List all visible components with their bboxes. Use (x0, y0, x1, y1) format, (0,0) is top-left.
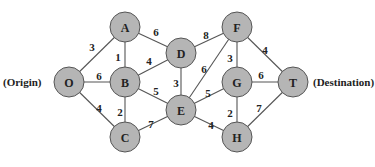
edge-weight-E-F: 6 (201, 63, 207, 75)
node-label: O (64, 76, 73, 90)
edge-weight-E-H: 4 (208, 119, 214, 131)
edge-weight-O-C: 4 (96, 102, 102, 114)
node-H: H (222, 122, 252, 152)
node-E: E (166, 95, 196, 125)
edge-weight-F-T: 4 (262, 44, 268, 56)
edge-weight-H-T: 7 (256, 102, 262, 114)
node-label: T (289, 76, 297, 90)
edge-weight-O-B: 6 (96, 70, 102, 82)
edge-weight-C-E: 7 (148, 118, 154, 130)
destination-label: (Destination) (313, 76, 374, 89)
edge-weight-G-H: 2 (227, 107, 233, 119)
node-label: D (177, 47, 186, 61)
node-T: T (278, 67, 308, 97)
node-F: F (222, 12, 252, 42)
node-D: D (166, 38, 196, 68)
edge-weight-B-E: 5 (153, 85, 159, 97)
edge-weight-O-A: 3 (89, 41, 95, 53)
edge-weight-A-D: 6 (153, 26, 159, 38)
edge-weight-F-G: 3 (227, 52, 233, 64)
node-label: B (121, 76, 129, 90)
node-O: O (54, 67, 84, 97)
edge-weight-D-F: 8 (203, 29, 209, 41)
node-label: E (177, 104, 185, 118)
node-label: G (232, 76, 241, 90)
node-label: A (121, 21, 130, 35)
node-label: F (233, 21, 240, 35)
node-B: B (110, 67, 140, 97)
origin-label: (Origin) (3, 76, 42, 89)
node-G: G (222, 67, 252, 97)
node-label: H (232, 131, 242, 145)
node-A: A (110, 12, 140, 42)
network-graph: 3641642573865434627 OABCDEFGHT (Origin) … (0, 0, 375, 167)
node-C: C (110, 122, 140, 152)
edge-weight-B-C: 2 (117, 106, 123, 118)
edge-weight-G-T: 6 (258, 69, 264, 81)
edge-weight-D-E: 3 (173, 77, 179, 89)
edge-weight-E-G: 5 (205, 87, 211, 99)
edge-weight-A-B: 1 (115, 51, 121, 63)
edge-weight-B-D: 4 (146, 55, 152, 67)
node-label: C (121, 131, 130, 145)
